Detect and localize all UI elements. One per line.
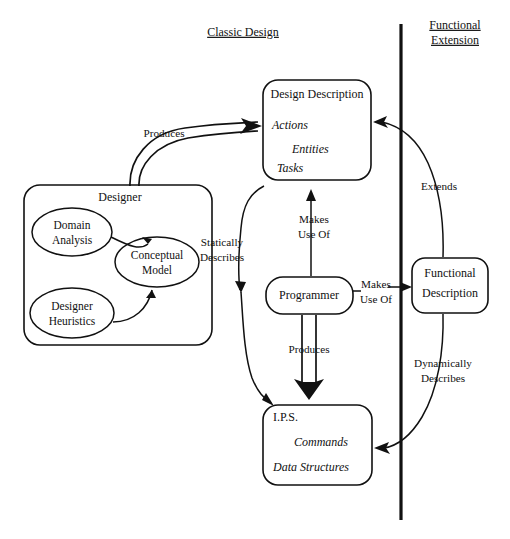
edge-designer-heuristics-to-conceptual-model xyxy=(113,290,152,322)
edge-label-makes-use-of-dd-line1: Makes xyxy=(299,213,329,225)
domain-analysis-line1: Domain xyxy=(53,219,90,231)
ips-item-data-structures: Data Structures xyxy=(272,460,349,474)
arrowhead-produces-programmer-to-ips xyxy=(294,379,324,400)
node-designer-heuristics[interactable] xyxy=(30,288,114,338)
edge-label-makes-use-of-fd-line1: Makes xyxy=(361,278,391,290)
ips-item-commands: Commands xyxy=(294,435,348,449)
design-description-title: Design Description xyxy=(271,87,364,101)
designer-title: Designer xyxy=(98,190,141,204)
edge-label-statically-describes-line1: Statically xyxy=(201,236,244,248)
edge-label-extends: Extends xyxy=(421,180,457,192)
diagram-svg: Classic Design Functional Extension Desi… xyxy=(0,0,510,539)
designer-heuristics-line1: Designer xyxy=(51,300,93,313)
arrowhead-makes-use-of-design-description xyxy=(306,189,316,201)
functional-description-line2: Description xyxy=(422,286,478,300)
domain-analysis-line2: Analysis xyxy=(52,234,93,247)
edge-label-dynamically-describes-line2: Describes xyxy=(421,372,465,384)
designer-heuristics-line2: Heuristics xyxy=(49,315,96,327)
edge-statically-describes-lower xyxy=(241,292,271,403)
edge-label-produces-programmer: Produces xyxy=(288,343,329,355)
arrowhead-domain-analysis-to-conceptual-model xyxy=(142,237,152,244)
conceptual-model-line2: Model xyxy=(142,264,172,276)
arrowhead-statically-describes-ips xyxy=(262,393,274,406)
arrowhead-statically-describes-mid xyxy=(235,281,246,293)
section-title-functional-extension-line1: Functional xyxy=(429,18,481,32)
edge-label-makes-use-of-dd-line2: Use Of xyxy=(298,228,330,240)
edge-label-makes-use-of-fd-line2: Use Of xyxy=(360,293,392,305)
edge-produces-designer-to-design-description-inner xyxy=(139,131,258,186)
conceptual-model-line1: Conceptual xyxy=(131,249,183,262)
edge-label-produces-designer: Produces xyxy=(143,127,184,139)
section-title-functional-extension-line2: Extension xyxy=(431,33,479,47)
arrowhead-makes-use-of-functional-description xyxy=(400,282,412,292)
edge-label-dynamically-describes-line1: Dynamically xyxy=(414,357,472,369)
design-description-item-tasks: Tasks xyxy=(277,161,304,175)
diagram-canvas: Classic Design Functional Extension Desi… xyxy=(0,0,510,539)
node-domain-analysis[interactable] xyxy=(32,208,112,256)
edge-label-statically-describes-line2: Describes xyxy=(200,251,244,263)
programmer-title: Programmer xyxy=(279,288,339,302)
design-description-item-entities: Entities xyxy=(291,142,329,156)
functional-description-line1: Functional xyxy=(424,266,476,280)
ips-title: I.P.S. xyxy=(273,410,298,424)
arrowhead-extends-design-description xyxy=(373,116,388,128)
section-title-classic-design: Classic Design xyxy=(207,25,279,39)
design-description-item-actions: Actions xyxy=(271,118,308,132)
